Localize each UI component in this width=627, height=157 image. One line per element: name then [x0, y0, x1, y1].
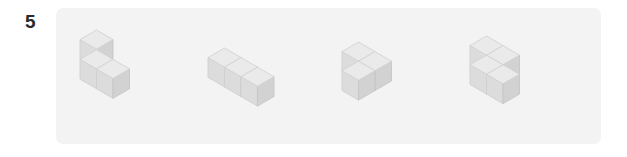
figure-2: [206, 46, 276, 108]
question-number: 5: [25, 10, 36, 34]
figure-1: [78, 28, 132, 100]
figure-panel: [56, 8, 601, 144]
figure-4: [468, 34, 522, 106]
figure-3: [340, 40, 394, 102]
exercise-canvas: 5: [0, 0, 627, 157]
